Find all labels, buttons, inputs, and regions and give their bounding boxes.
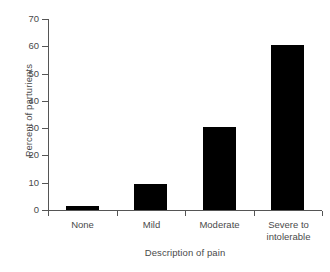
y-axis-tick — [42, 155, 48, 156]
bar — [134, 184, 167, 210]
y-axis-tick — [42, 101, 48, 102]
x-axis-category-label-line: Moderate — [185, 219, 254, 231]
y-axis-tick — [42, 19, 48, 20]
y-axis-tick-label: 40 — [10, 95, 39, 106]
y-axis-title: Percent of parturients — [23, 36, 34, 186]
y-axis-line — [48, 19, 49, 211]
y-axis-tick-label: 0 — [10, 204, 39, 215]
x-axis-tick — [117, 211, 118, 216]
y-axis-tick — [42, 46, 48, 47]
x-axis-tick — [322, 211, 323, 216]
x-axis-category-label: None — [48, 219, 117, 231]
bar — [66, 206, 99, 210]
x-axis-category-label-line: Mild — [117, 219, 186, 231]
x-axis-category-label: Mild — [117, 219, 186, 231]
x-axis-category-label: Moderate — [185, 219, 254, 231]
y-axis-tick — [42, 74, 48, 75]
y-axis-tick-label: 20 — [10, 149, 39, 160]
bar-chart: Percent of parturients 010203040506070No… — [0, 0, 330, 272]
bar — [203, 127, 236, 210]
x-axis-category-label-line: intolerable — [254, 231, 323, 243]
x-axis-tick — [185, 211, 186, 216]
y-axis-tick-label: 30 — [10, 122, 39, 133]
x-axis-category-label-line: None — [48, 219, 117, 231]
bar — [271, 45, 304, 210]
y-axis-tick-label: 70 — [10, 13, 39, 24]
x-axis-title: Description of pain — [48, 247, 322, 258]
y-axis-tick — [42, 183, 48, 184]
y-axis-tick-label: 50 — [10, 68, 39, 79]
x-axis-category-label-line: Severe to — [254, 219, 323, 231]
y-axis-tick — [42, 128, 48, 129]
y-axis-tick-label: 60 — [10, 40, 39, 51]
x-axis-category-label: Severe tointolerable — [254, 219, 323, 242]
x-axis-tick — [254, 211, 255, 216]
y-axis-tick-label: 10 — [10, 177, 39, 188]
x-axis-tick — [48, 211, 49, 216]
